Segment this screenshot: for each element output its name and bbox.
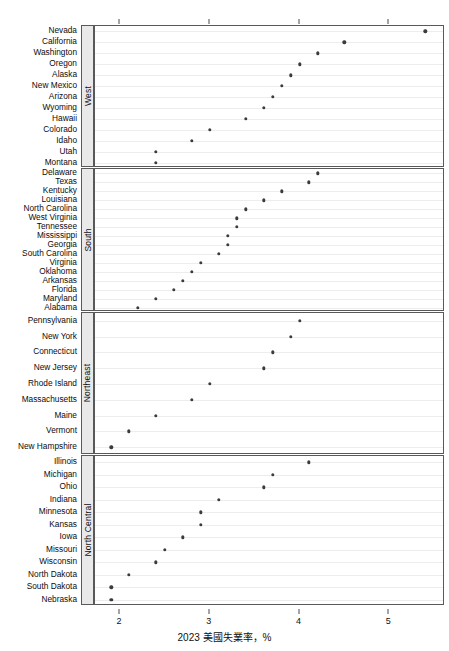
gridline	[95, 575, 443, 576]
gridline	[95, 368, 443, 369]
data-point	[154, 297, 157, 300]
gridline	[95, 290, 443, 291]
gridline	[95, 384, 443, 385]
category-label: Montana	[45, 157, 77, 166]
data-point	[172, 288, 175, 291]
data-point	[154, 150, 157, 153]
gridline	[95, 337, 443, 338]
plot-area	[94, 25, 444, 167]
data-point	[244, 117, 247, 120]
gridline	[95, 500, 443, 501]
panel-south: DelawareTexasKentuckyLouisianaNorth Caro…	[0, 168, 449, 311]
data-point	[289, 73, 292, 76]
data-point	[136, 306, 139, 309]
data-point	[316, 172, 319, 175]
gridline	[95, 119, 443, 120]
gridline	[95, 130, 443, 131]
gridline	[95, 537, 443, 538]
category-label: Minnesota	[39, 507, 77, 516]
category-label-column: NevadaCaliforniaWashingtonOregonAlaskaNe…	[0, 25, 79, 167]
x-tick-mark	[208, 609, 209, 614]
x-tick-label: 5	[386, 616, 391, 626]
gridline	[95, 108, 443, 109]
panel-north-central: IllinoisMichiganOhioIndianaMinnesotaKans…	[0, 455, 449, 605]
gridline	[95, 152, 443, 153]
category-label-column: DelawareTexasKentuckyLouisianaNorth Caro…	[0, 168, 79, 311]
category-label: Nebraska	[41, 594, 77, 603]
x-tick-mark	[119, 609, 120, 614]
category-label: Massachusetts	[22, 394, 77, 403]
category-label: Idaho	[56, 135, 77, 144]
category-label: New Mexico	[32, 81, 77, 90]
data-point	[262, 106, 265, 109]
gridline	[95, 75, 443, 76]
data-point	[307, 181, 310, 184]
category-label: Pennsylvania	[28, 315, 77, 324]
panel-strip-label: Northeast	[81, 312, 94, 454]
gridline	[95, 281, 443, 282]
category-label: Ohio	[59, 482, 77, 491]
panel-strip-text: North Central	[83, 503, 93, 556]
gridline	[95, 245, 443, 246]
gridline	[95, 182, 443, 183]
category-label: New York	[42, 331, 77, 340]
x-tick-mark	[298, 609, 299, 614]
data-point	[280, 84, 283, 87]
category-label: New Hampshire	[18, 442, 77, 451]
panel-northeast: PennsylvaniaNew YorkConnecticutNew Jerse…	[0, 312, 449, 454]
category-label: Missouri	[46, 544, 77, 553]
data-point	[127, 573, 130, 576]
gridline	[95, 600, 443, 601]
data-point	[190, 270, 193, 273]
x-axis-title: 2023 美國失業率，%	[0, 629, 449, 644]
category-label: Alabama	[44, 302, 77, 311]
category-label: Alaska	[52, 70, 77, 79]
data-point	[316, 52, 319, 55]
data-point	[154, 161, 157, 164]
data-point	[154, 414, 157, 417]
gridline	[95, 462, 443, 463]
category-label: Oregon	[49, 59, 77, 68]
data-point	[199, 261, 202, 264]
gridline	[95, 31, 443, 32]
gridline	[95, 299, 443, 300]
category-label: Rhode Island	[28, 379, 77, 388]
gridline	[95, 272, 443, 273]
data-point	[109, 445, 112, 448]
data-point	[262, 486, 265, 489]
data-point	[235, 225, 238, 228]
data-point	[226, 234, 229, 237]
category-label: Maine	[54, 410, 77, 419]
gridline	[95, 562, 443, 563]
category-label: Vermont	[46, 426, 77, 435]
gridline	[95, 447, 443, 448]
plot-area	[94, 455, 444, 605]
gridline	[95, 227, 443, 228]
category-label: Colorado	[43, 124, 77, 133]
gridline	[95, 141, 443, 142]
plot-area	[94, 312, 444, 454]
panel-strip-label: South	[81, 168, 94, 311]
data-point	[163, 548, 166, 551]
gridline	[95, 512, 443, 513]
gridline	[95, 97, 443, 98]
category-label: New Jersey	[34, 363, 77, 372]
gridline	[95, 352, 443, 353]
gridline	[95, 400, 443, 401]
data-point	[271, 351, 274, 354]
category-label: Arizona	[49, 92, 77, 101]
data-point	[235, 216, 238, 219]
data-point	[109, 598, 112, 601]
x-tick-label: 4	[296, 616, 301, 626]
gridline	[95, 191, 443, 192]
gridline	[95, 218, 443, 219]
category-label: Connecticut	[33, 347, 77, 356]
gridline	[95, 475, 443, 476]
data-point	[289, 335, 292, 338]
x-tick-mark-top	[119, 19, 120, 24]
panel-strip-text: West	[83, 86, 93, 106]
gridline	[95, 209, 443, 210]
data-point	[190, 139, 193, 142]
data-point	[181, 279, 184, 282]
category-label-column: PennsylvaniaNew YorkConnecticutNew Jerse…	[0, 312, 79, 454]
